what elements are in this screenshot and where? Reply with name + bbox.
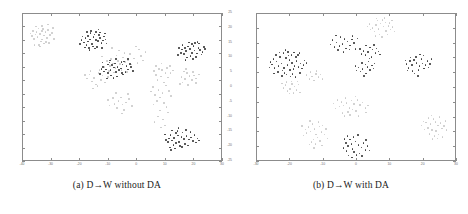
x-tick-label: 10 [163,163,167,166]
data-point-target [368,61,370,63]
data-point-target [378,51,380,53]
data-point-source [129,53,131,55]
plot-area-a [22,13,222,161]
data-point-source [385,22,387,24]
data-point-target [363,50,365,52]
data-point-source [378,28,380,30]
data-point-target [103,36,105,38]
data-point-source [306,132,308,134]
data-point-target [346,150,348,152]
data-point-target [410,57,412,59]
data-point-source [154,94,156,96]
data-point-source [41,25,43,27]
data-point-source [341,101,343,103]
data-point-target [115,71,117,73]
data-point-target [270,61,272,63]
data-point-target [118,69,120,71]
data-point-source [311,141,313,143]
data-point-target [360,71,362,73]
data-point-target [167,141,169,143]
data-point-source [389,22,391,24]
x-tick [108,158,109,161]
data-point-target [428,67,430,69]
data-point-target [169,147,171,149]
y-tick [22,53,25,54]
data-point-target [353,151,355,153]
data-point-source [303,135,305,137]
data-point-target [199,49,201,51]
data-point-target [332,39,334,41]
y-tick-right [453,146,456,147]
x-tick-label: 20 [421,163,425,166]
data-point-target [353,42,355,44]
data-point-target [174,148,176,150]
data-point-source [427,127,429,129]
y-tick-right [219,107,222,108]
data-point-target [106,78,108,80]
data-point-source [40,41,42,43]
data-point-target [356,70,358,72]
data-point-source [430,123,432,125]
x-tick-top [389,13,390,16]
data-point-target [93,36,95,38]
data-point-target [361,62,363,64]
data-point-target [165,139,167,141]
data-point-target [292,73,294,75]
data-point-target [409,60,411,62]
data-point-target [416,62,418,64]
data-point-target [414,73,416,75]
data-point-target [330,44,332,46]
data-point-target [181,146,183,148]
data-point-source [423,121,425,123]
data-point-target [294,65,296,67]
data-point-target [295,76,297,78]
data-point-source [375,35,377,37]
data-point-source [435,130,437,132]
data-point-target [275,54,277,56]
y-tick-right [219,80,222,81]
x-tick-top [323,13,324,16]
y-tick-right [453,72,456,73]
data-point-target [379,54,381,56]
y-tick-label: -15 [227,129,232,132]
x-tick-label: -10 [105,163,110,166]
data-point-target [423,55,425,57]
data-point-target [357,38,359,40]
data-point-source [184,78,186,80]
data-point-target [109,60,111,62]
data-point-target [125,71,127,73]
y-tick-right [219,121,222,122]
data-point-target [89,39,91,41]
y-tick-right [219,40,222,41]
y-tick [256,43,259,44]
data-point-source [442,136,444,138]
data-point-target [96,46,98,48]
x-tick-top [193,13,194,16]
data-point-source [112,97,114,99]
data-point-target [273,73,275,75]
data-point-source [299,92,301,94]
data-point-target [102,62,104,64]
x-tick-label: -40 [20,163,25,166]
data-point-source [43,43,45,45]
y-tick-right [219,26,222,27]
x-tick-top [22,13,23,16]
data-point-target [99,32,101,34]
x-tick-top [356,13,357,16]
data-point-source [374,31,376,33]
data-point-target [421,58,423,60]
data-point-source [315,143,317,145]
data-point-source [117,60,119,62]
data-point-target [127,69,129,71]
data-point-target [363,75,365,77]
data-point-source [365,112,367,114]
data-point-target [285,49,287,51]
data-point-target [347,145,349,147]
y-tick [256,57,259,58]
data-point-target [91,43,93,45]
data-point-source [39,33,41,35]
data-point-source [362,102,364,104]
data-point-source [311,76,313,78]
data-point-target [288,55,290,57]
data-point-source [394,31,396,33]
